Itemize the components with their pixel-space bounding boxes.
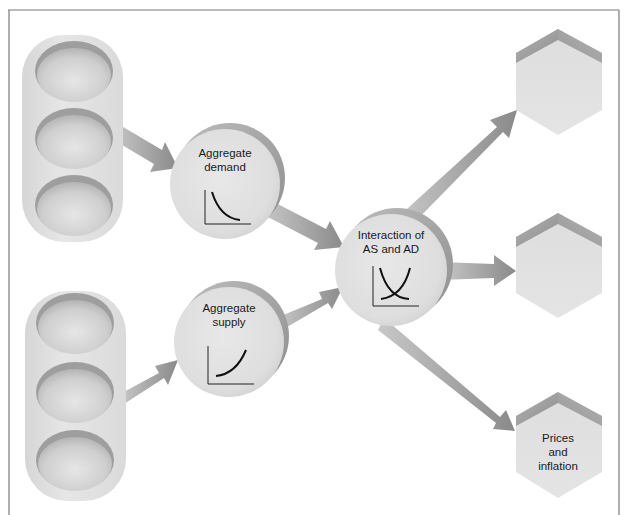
input-slot: [35, 175, 113, 236]
node-aggregate-supply: [174, 281, 289, 397]
output-hexagon-1: [516, 29, 602, 135]
input-group-demand: [22, 35, 123, 242]
arrow-interaction-to-output-3: [378, 318, 515, 431]
input-slot: [36, 293, 114, 354]
aggregate-demand-label: Aggregate demand: [185, 146, 265, 174]
output-3-label: Prices and inflation: [518, 431, 598, 473]
node-interaction: [335, 208, 453, 326]
output-hexagon-2: [516, 213, 602, 318]
node-aggregate-demand: [170, 123, 285, 239]
diagram-canvas: Aggregate demand Aggregate supply Intera…: [0, 0, 625, 515]
input-slot: [36, 362, 114, 423]
input-slot: [36, 430, 114, 491]
aggregate-supply-label: Aggregate supply: [189, 301, 269, 329]
input-slot: [35, 41, 113, 102]
input-group-supply: [25, 291, 126, 501]
interaction-label: Interaction of AS and AD: [346, 228, 436, 256]
arrow-inputs-to-supply: [120, 360, 178, 404]
input-slot: [35, 108, 113, 169]
